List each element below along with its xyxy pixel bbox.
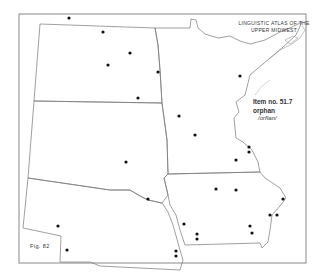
data-point (65, 248, 68, 251)
atlas-title-line2: UPPER MIDWEST (236, 27, 312, 34)
data-point (247, 145, 250, 148)
data-point (250, 231, 253, 234)
state-south-dakota (28, 101, 168, 203)
data-point (128, 51, 131, 54)
data-point (182, 222, 185, 225)
data-point (247, 150, 250, 153)
data-point (177, 114, 180, 117)
map-frame (19, 14, 306, 263)
isle-royale (285, 36, 298, 44)
data-point (174, 249, 177, 252)
data-point (146, 197, 149, 200)
item-word: orphan (253, 106, 292, 115)
data-point (101, 30, 104, 33)
item-legend: Item no. 51.7 orphan (253, 97, 292, 115)
state-north-dakota (34, 24, 162, 103)
map-canvas (0, 0, 324, 278)
data-point (174, 254, 177, 257)
data-point (238, 74, 241, 77)
phonetic-transcription: /orfIan/ (258, 115, 277, 121)
data-point (106, 63, 109, 66)
data-point (275, 213, 278, 216)
data-point (156, 70, 159, 73)
figure-label: Fig. 82 (30, 243, 50, 249)
data-point (214, 187, 217, 190)
data-point (248, 224, 251, 227)
data-point (281, 197, 284, 200)
state-nebraska (23, 178, 183, 270)
data-point (124, 160, 127, 163)
data-point (195, 232, 198, 235)
state-iowa (164, 172, 286, 248)
data-point (67, 16, 70, 19)
data-point (268, 213, 271, 216)
data-point (234, 158, 237, 161)
data-points (56, 16, 284, 257)
data-point (234, 188, 237, 191)
data-point (136, 96, 139, 99)
atlas-title-line1: LINGUISTIC ATLAS OF THE (236, 20, 312, 27)
data-point (56, 224, 59, 227)
wisconsin-border (255, 80, 270, 95)
data-point (193, 133, 196, 136)
item-number: Item no. 51.7 (253, 97, 292, 106)
data-point (195, 237, 198, 240)
atlas-title: LINGUISTIC ATLAS OF THE UPPER MIDWEST (236, 20, 312, 34)
